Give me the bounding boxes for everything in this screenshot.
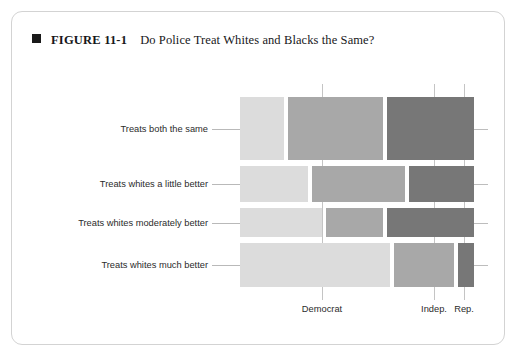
mosaic-tile-republican-row1 xyxy=(387,97,474,160)
row-tick-right-2 xyxy=(474,184,488,185)
row-label-4: Treats whites much better xyxy=(12,260,208,270)
x-axis-label-democrat: Democrat xyxy=(302,304,342,314)
mosaic-tile-independent-row1 xyxy=(288,97,383,160)
figure-card: FIGURE 11-1 Do Police Treat Whites and B… xyxy=(11,11,505,345)
row-label-1: Treats both the same xyxy=(12,124,208,134)
mosaic-tile-independent-row4 xyxy=(394,243,454,287)
mosaic-tile-independent-row3 xyxy=(326,208,383,237)
row-tick-3 xyxy=(212,223,240,224)
mosaic-tile-democrat-row3 xyxy=(240,208,322,237)
mosaic-tile-republican-row3 xyxy=(387,208,474,237)
row-tick-2 xyxy=(212,184,240,185)
x-axis-label-rep: Rep. xyxy=(454,304,474,314)
mosaic-plot: Treats both the sameTreats whites a litt… xyxy=(12,12,506,346)
x-axis-label-indep: Indep. xyxy=(421,304,447,314)
mosaic-tile-republican-row2 xyxy=(409,166,474,202)
row-label-3: Treats whites moderately better xyxy=(12,218,208,228)
row-tick-1 xyxy=(212,129,240,130)
mosaic-tile-republican-row4 xyxy=(458,243,474,287)
row-label-2: Treats whites a little better xyxy=(12,179,208,189)
row-tick-right-3 xyxy=(474,223,488,224)
row-tick-right-4 xyxy=(474,265,488,266)
mosaic-tile-independent-row2 xyxy=(312,166,405,202)
row-tick-right-1 xyxy=(474,129,488,130)
mosaic-tile-democrat-row4 xyxy=(240,243,390,287)
mosaic-tile-democrat-row2 xyxy=(240,166,308,202)
row-tick-4 xyxy=(212,265,240,266)
mosaic-tile-democrat-row1 xyxy=(240,97,284,160)
